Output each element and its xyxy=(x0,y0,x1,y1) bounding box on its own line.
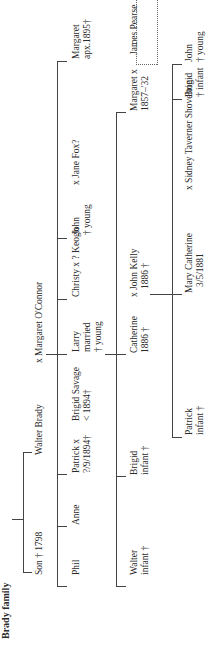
drop-phil xyxy=(57,586,67,587)
drop-john-gen4 xyxy=(172,64,182,65)
gen3-tick xyxy=(105,354,116,355)
dotted-box-side xyxy=(136,64,157,65)
drop-walter-infant xyxy=(116,586,126,587)
drop-patrick-infant xyxy=(172,437,182,438)
spouse-margaret-oconnor: x Margaret O'Connor xyxy=(34,282,45,363)
gen3-line xyxy=(116,113,117,587)
drop-john xyxy=(57,238,67,239)
gen1-drop-walter xyxy=(23,452,32,453)
person-son: Son † 1798 xyxy=(34,532,45,575)
drop-brigid-infant xyxy=(116,476,126,477)
dotted-box-top xyxy=(157,0,158,65)
spouse-john-kelly-death: 1886 † xyxy=(140,263,151,289)
person-brigid-gen4: Brigid xyxy=(184,73,195,97)
person-brigid-gen4-note: † infant xyxy=(195,68,206,97)
person-margaret-1857: Margaret x xyxy=(129,69,140,111)
gen1-line xyxy=(23,453,24,573)
person-patrick-death: ?/9/1894† xyxy=(82,435,93,473)
person-brigid-savage: Brigid Savage xyxy=(71,367,82,421)
family-tree-diagram: Brady family Son † 1798 Walter Brady x M… xyxy=(0,0,219,645)
gen1-drop-son xyxy=(23,572,32,573)
person-brigid-savage-death: < 1894† xyxy=(82,390,93,421)
person-margaret-death: apx.1895† xyxy=(82,19,93,59)
person-patrick: Patrick x xyxy=(71,439,82,473)
person-john: John xyxy=(71,217,82,235)
person-walter-infant-note: infant † xyxy=(140,546,151,575)
person-anne: Anne xyxy=(71,504,82,525)
person-walter-brady: Walter Brady xyxy=(34,404,45,455)
spouse-john-kelly: x John Kelly xyxy=(129,248,140,297)
person-margaret-1857-dates: 1857–'32 xyxy=(140,76,151,111)
gen4-line xyxy=(172,65,173,438)
person-larry-note1: married xyxy=(82,322,93,352)
person-john-gen4-note: † young xyxy=(195,31,206,62)
person-larry-note2: † young xyxy=(93,321,104,352)
gen2-line xyxy=(57,62,58,587)
drop-margaret xyxy=(57,61,67,62)
drop-anne xyxy=(57,526,67,527)
person-patrick-infant: Patrick xyxy=(184,408,195,435)
dotted-box-bottom xyxy=(136,0,137,65)
spouse-jane-fox: x Jane Fox? xyxy=(71,140,82,185)
drop-brigid-gen4 xyxy=(172,99,182,100)
person-patrick-infant-note: infant † xyxy=(195,406,206,435)
drop-catherine xyxy=(116,354,126,355)
drop-patrick xyxy=(57,474,67,475)
person-john-death: † young xyxy=(82,204,93,235)
gen4-tick xyxy=(150,294,172,295)
person-john-gen4: John xyxy=(184,44,195,62)
gen2-tick xyxy=(46,354,57,355)
drop-mary-catherine xyxy=(172,294,182,295)
drop-margaret-1857 xyxy=(116,112,126,113)
person-larry: Larry xyxy=(71,331,82,352)
person-catherine: Catherine xyxy=(129,316,140,353)
drop-larry xyxy=(57,354,67,355)
diagram-title: Brady family xyxy=(1,583,12,639)
person-brigid-infant: Brigid xyxy=(129,451,140,475)
person-catherine-death: 1886 † xyxy=(140,327,151,353)
person-christy: Christy x ? Keogh xyxy=(71,228,82,297)
drop-christy xyxy=(57,299,67,300)
person-walter-infant: Walter xyxy=(129,550,140,575)
root-tick xyxy=(12,519,23,520)
person-phil: Phil xyxy=(71,560,82,575)
spouse-james-pearse: James Pearse xyxy=(129,5,140,55)
person-brigid-infant-note: infant † xyxy=(140,446,151,475)
person-mary-catherine: Mary Catherine xyxy=(184,233,195,293)
person-margaret: Margaret xyxy=(71,24,82,59)
person-mary-catherine-date: 3/5/1881 xyxy=(195,253,206,287)
